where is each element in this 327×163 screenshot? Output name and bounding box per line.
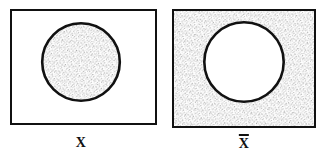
panel-x-complement: [173, 10, 315, 127]
panel-x: [11, 10, 156, 124]
venn-diagram-figure: X X Two rectangles each containing a cir…: [0, 0, 327, 163]
venn-diagram-canvas: [0, 0, 327, 163]
